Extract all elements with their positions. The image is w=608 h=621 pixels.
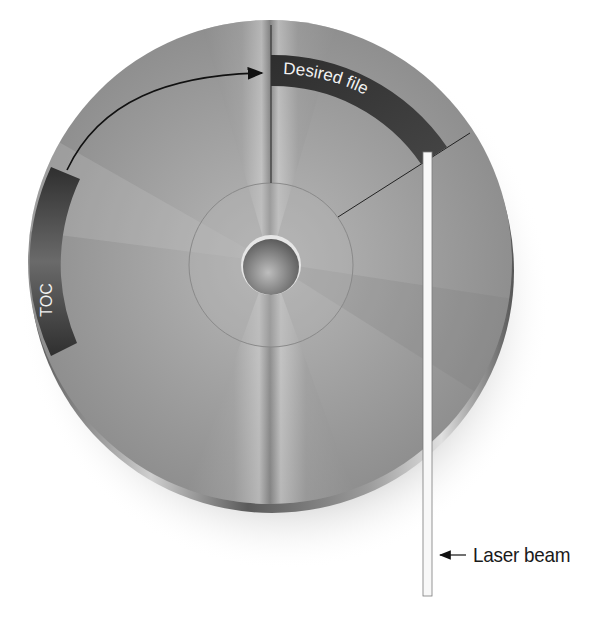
laser-beam (423, 152, 432, 596)
center-hole (241, 235, 301, 295)
cd-diagram: Desired file TOC (0, 0, 608, 621)
toc-label: TOC (38, 283, 55, 316)
laser-beam-label: Laser beam (473, 543, 570, 567)
